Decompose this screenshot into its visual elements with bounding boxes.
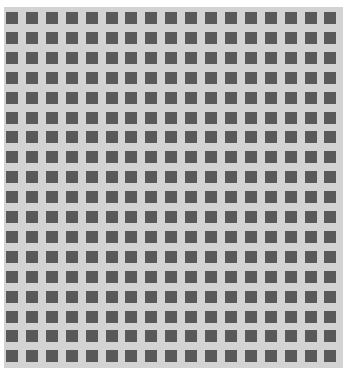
grid-square [245,72,257,84]
grid-square [305,52,317,64]
grid-square [86,151,98,163]
grid-square [265,311,277,323]
grid-square [106,32,118,44]
grid-square [6,231,18,243]
grid-square [285,191,297,203]
grid-square [145,32,157,44]
grid-square [165,311,177,323]
grid-square [165,12,177,24]
grid-square [165,330,177,342]
grid-square [145,151,157,163]
grid-square [324,330,336,342]
grid-square [26,171,38,183]
grid-square [66,72,78,84]
grid-square [165,231,177,243]
grid-square [86,32,98,44]
grid-square [305,92,317,104]
grid-square [86,291,98,303]
grid-square [125,330,137,342]
grid-square [265,171,277,183]
grid-square [165,191,177,203]
grid-square [125,112,137,124]
grid-square [324,131,336,143]
grid-square [145,191,157,203]
grid-square [225,12,237,24]
grid-square [205,32,217,44]
grid-square [324,112,336,124]
grid-square [26,350,38,362]
grid-square [6,131,18,143]
grid-square [324,72,336,84]
grid-square [265,131,277,143]
grid-square [125,231,137,243]
grid-square [145,211,157,223]
grid-square [6,350,18,362]
grid-square [66,12,78,24]
grid-square [265,92,277,104]
grid-square [165,92,177,104]
grid-square [46,12,58,24]
grid-square [46,151,58,163]
grid-square [305,311,317,323]
grid-square [225,171,237,183]
grid-square [185,52,197,64]
grid-square [305,151,317,163]
grid-square [86,171,98,183]
grid-square [265,231,277,243]
grid-square [245,271,257,283]
grid-square [265,52,277,64]
grid-square [185,271,197,283]
grid-square [86,12,98,24]
grid-square [285,231,297,243]
grid-square [106,350,118,362]
grid-square [145,231,157,243]
grid-square [66,251,78,263]
grid-square [245,311,257,323]
grid-square [26,12,38,24]
square-grid-pattern [4,7,343,368]
grid-square [66,92,78,104]
grid-square [165,171,177,183]
grid-square [125,92,137,104]
grid-square [106,271,118,283]
grid-square [26,52,38,64]
grid-square [125,32,137,44]
grid-square [106,311,118,323]
grid-square [86,112,98,124]
grid-square [185,12,197,24]
grid-square [205,92,217,104]
grid-square [66,52,78,64]
grid-square [225,271,237,283]
grid-square [305,350,317,362]
grid-square [106,52,118,64]
grid-square [125,291,137,303]
grid-square [6,32,18,44]
grid-square [125,311,137,323]
grid-square [86,131,98,143]
grid-square [6,72,18,84]
grid-square [205,12,217,24]
grid-square [285,92,297,104]
grid-square [145,350,157,362]
grid-square [185,231,197,243]
grid-square [324,12,336,24]
grid-square [46,330,58,342]
grid-square [165,211,177,223]
grid-square [46,131,58,143]
grid-square [245,12,257,24]
grid-square [46,350,58,362]
grid-square [245,52,257,64]
grid-square [285,52,297,64]
grid-square [205,171,217,183]
grid-square [66,271,78,283]
grid-square [125,72,137,84]
grid-square [46,112,58,124]
grid-square [205,131,217,143]
grid-square [225,92,237,104]
grid-square [205,211,217,223]
grid-square [106,112,118,124]
grid-square [285,311,297,323]
grid-square [125,271,137,283]
grid-square [125,171,137,183]
grid-square [205,251,217,263]
